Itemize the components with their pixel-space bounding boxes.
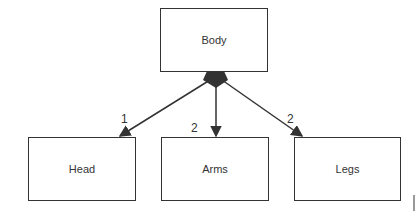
arms-label: Arms [202,163,228,175]
legs-label: Legs [336,163,360,175]
head-label: Head [69,163,95,175]
arms-multiplicity: 2 [191,121,198,135]
arms-node: Arms [161,137,269,201]
body-label: Body [201,34,226,46]
head-node: Head [28,137,136,201]
body-node: Body [160,8,268,72]
aggregation-diamond [203,71,228,88]
legs-node: Legs [294,137,401,201]
legs-multiplicity: 2 [287,112,294,126]
head-multiplicity: 1 [121,112,128,126]
